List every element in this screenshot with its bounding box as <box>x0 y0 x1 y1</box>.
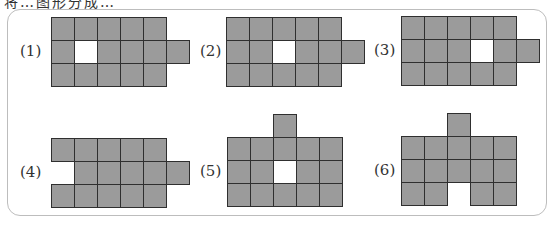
gray-square <box>51 17 75 41</box>
gray-square <box>401 159 425 183</box>
gray-square <box>493 62 517 86</box>
gray-square <box>250 160 274 184</box>
gray-square <box>447 159 471 183</box>
gray-square <box>250 137 274 161</box>
gray-square <box>227 160 251 184</box>
gray-square <box>97 40 121 64</box>
gray-square <box>470 159 494 183</box>
gray-square <box>120 63 144 87</box>
white-square <box>272 40 296 64</box>
gray-square <box>319 137 343 161</box>
gray-square <box>470 16 494 40</box>
gray-square <box>470 182 494 206</box>
gray-square <box>249 40 273 64</box>
gray-square <box>401 16 425 40</box>
gray-square <box>470 62 494 86</box>
gray-square <box>249 63 273 87</box>
gray-square <box>447 16 471 40</box>
gray-square <box>296 183 320 207</box>
gray-square <box>318 40 342 64</box>
gray-square <box>424 39 448 63</box>
gray-square <box>295 40 319 64</box>
gray-square <box>74 17 98 41</box>
gray-square <box>74 63 98 87</box>
gray-square <box>447 39 471 63</box>
figure-label-2: (2) <box>200 42 221 60</box>
gray-square <box>447 113 471 137</box>
gray-square <box>401 39 425 63</box>
gray-square <box>143 40 167 64</box>
gray-square <box>273 183 297 207</box>
gray-square <box>166 161 190 185</box>
gray-square <box>295 17 319 41</box>
gray-square <box>318 17 342 41</box>
gray-square <box>143 17 167 41</box>
gray-square <box>295 63 319 87</box>
gray-square <box>74 161 98 185</box>
gray-square <box>51 138 75 162</box>
gray-square <box>401 182 425 206</box>
white-square <box>74 40 98 64</box>
gray-square <box>143 138 167 162</box>
gray-square <box>143 161 167 185</box>
gray-square <box>296 137 320 161</box>
gray-square <box>97 161 121 185</box>
gray-square <box>341 40 365 64</box>
gray-square <box>226 40 250 64</box>
white-square <box>273 160 297 184</box>
white-square <box>470 39 494 63</box>
gray-square <box>143 63 167 87</box>
gray-square <box>516 39 540 63</box>
gray-square <box>272 63 296 87</box>
gray-square <box>424 159 448 183</box>
gray-square <box>447 62 471 86</box>
gray-square <box>51 184 75 208</box>
gray-square <box>51 63 75 87</box>
gray-square <box>226 63 250 87</box>
gray-square <box>273 114 297 138</box>
figure-label-1: (1) <box>20 42 41 60</box>
gray-square <box>296 160 320 184</box>
gray-square <box>120 184 144 208</box>
gray-square <box>424 62 448 86</box>
gray-square <box>227 183 251 207</box>
gray-square <box>120 40 144 64</box>
gray-square <box>424 182 448 206</box>
gray-square <box>401 62 425 86</box>
gray-square <box>166 40 190 64</box>
gray-square <box>97 138 121 162</box>
figure-label-5: (5) <box>200 162 221 180</box>
gray-square <box>273 137 297 161</box>
gray-square <box>318 63 342 87</box>
gray-square <box>424 136 448 160</box>
figure-label-6: (6) <box>374 161 395 179</box>
figure-label-3: (3) <box>374 41 395 59</box>
gray-square <box>97 17 121 41</box>
gray-square <box>249 17 273 41</box>
gray-square <box>226 17 250 41</box>
gray-square <box>319 183 343 207</box>
figure-label-4: (4) <box>20 163 41 181</box>
gray-square <box>319 160 343 184</box>
gray-square <box>143 184 167 208</box>
gray-square <box>493 39 517 63</box>
gray-square <box>272 17 296 41</box>
gray-square <box>97 184 121 208</box>
gray-square <box>493 136 517 160</box>
gray-square <box>120 138 144 162</box>
gray-square <box>51 40 75 64</box>
gray-square <box>470 136 494 160</box>
gray-square <box>74 184 98 208</box>
gray-square <box>74 138 98 162</box>
gray-square <box>493 159 517 183</box>
gray-square <box>401 136 425 160</box>
gray-square <box>250 183 274 207</box>
gray-square <box>493 182 517 206</box>
gray-square <box>120 17 144 41</box>
gray-square <box>447 136 471 160</box>
gray-square <box>424 16 448 40</box>
gray-square <box>97 63 121 87</box>
gray-square <box>120 161 144 185</box>
gray-square <box>493 16 517 40</box>
gray-square <box>227 137 251 161</box>
